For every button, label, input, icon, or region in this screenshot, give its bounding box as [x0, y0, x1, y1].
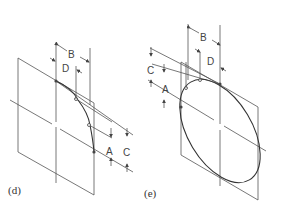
dim-label-c-e: C [147, 65, 154, 76]
dim-label-d-e: D [207, 56, 214, 67]
slanted-centerline [10, 100, 52, 124]
dim-label-a-e: A [162, 84, 169, 95]
caption-d: (d) [8, 184, 21, 197]
dim-label-b-d: B [68, 49, 75, 60]
dim-label-d-d: D [62, 63, 69, 74]
panel-d: B D A C (d) [8, 42, 133, 197]
caption-e: (e) [144, 187, 157, 200]
panel-e: B D C A (e) [144, 24, 277, 200]
figure-canvas: B D A C (d) [0, 0, 287, 210]
dim-label-a-d: A [106, 146, 113, 157]
dim-label-b-e: B [200, 32, 207, 43]
dim-label-c-d: C [123, 147, 130, 158]
